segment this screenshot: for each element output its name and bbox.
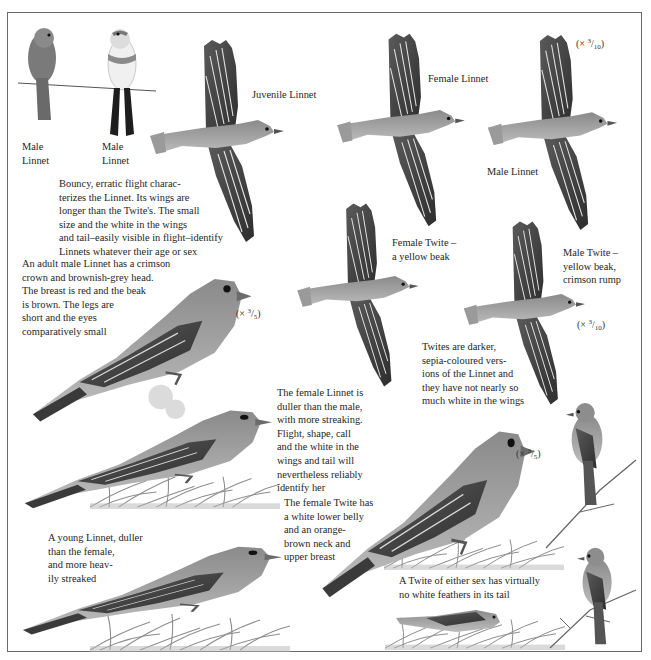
caption-flight: Bouncy, erratic flight charac- terizes t… xyxy=(59,177,223,259)
twite-upright-bottom-right-bird xyxy=(572,546,624,646)
caption-twites: Twites are darker, sepia-coloured vers- … xyxy=(422,340,524,408)
male-linnet-front-view-bird xyxy=(108,29,136,136)
female-twite-flight-bird xyxy=(288,200,426,390)
twite-upright-on-twig-bird xyxy=(564,398,612,510)
caption-twite-tail: A Twite of either sex has virtually no w… xyxy=(399,574,540,601)
wire-perch-illustration xyxy=(18,28,158,143)
label-female-linnet: Female Linnet xyxy=(428,72,488,86)
label-male-linnet-flight: Male Linnet xyxy=(487,165,538,179)
label-juvenile-linnet: Juvenile Linnet xyxy=(252,88,316,102)
male-linnet-flight-bird xyxy=(484,30,619,235)
label-male-twite-flight: Male Twite – yellow beak, crimson rump xyxy=(563,246,621,287)
label-male-linnet-back: Male Linnet xyxy=(22,140,49,167)
scale-note-twite-flight: (× 3/10) xyxy=(577,318,605,332)
female-linnet-perched-bird xyxy=(22,392,272,510)
label-male-linnet-front: Male Linnet xyxy=(102,140,129,167)
scale-note-adult-male: (× 3/5) xyxy=(236,307,261,321)
scale-note-female-twite: (× 3/5) xyxy=(516,447,541,461)
caption-female-twite: The female Twite has a white lower belly… xyxy=(284,496,373,564)
caption-young-linnet: A young Linnet, duller than the female, … xyxy=(48,531,143,585)
label-female-twite-flight: Female Twite – a yellow beak xyxy=(392,236,456,263)
crouching-twite-bird xyxy=(396,604,506,636)
male-linnet-back-view-bird xyxy=(28,28,56,120)
scale-note-top-right: (× 3/10) xyxy=(576,37,604,51)
